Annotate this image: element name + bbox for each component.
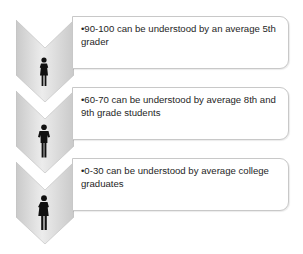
woman-icon	[37, 195, 51, 231]
level-box-1: •90-100 can be understood by an average …	[72, 16, 289, 69]
man-icon	[37, 124, 51, 158]
level-text-3: •0-30 can be understood by average colle…	[81, 164, 282, 190]
level-box-3: •0-30 can be understood by average colle…	[72, 158, 289, 211]
level-text-1: •90-100 can be understood by an average …	[81, 22, 282, 48]
level-box-2: •60-70 can be understood by average 8th …	[72, 87, 289, 140]
level-text-2: •60-70 can be understood by average 8th …	[81, 93, 282, 119]
woman-icon	[38, 57, 50, 87]
readability-diagram: •90-100 can be understood by an average …	[0, 0, 303, 254]
